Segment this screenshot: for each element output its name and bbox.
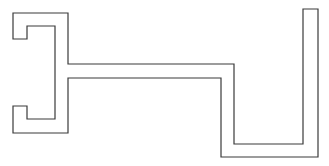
background [0, 0, 329, 166]
diagram-canvas [0, 0, 329, 166]
